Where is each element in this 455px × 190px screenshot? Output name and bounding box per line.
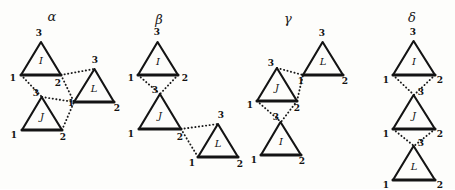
triangle-letter: J: [410, 110, 417, 121]
panel-label-gamma: γ: [284, 11, 292, 26]
vertex-number-1: 1: [298, 76, 304, 86]
vertex-number-3: 3: [92, 55, 98, 65]
vertex-number-2: 2: [114, 103, 120, 113]
vertex-number-3: 3: [154, 27, 160, 37]
vertex-number-2: 2: [177, 132, 183, 142]
vertex-number-3: 3: [319, 28, 325, 38]
vertex-number-1: 1: [251, 155, 257, 165]
triangle-l-gamma[interactable]: L123: [298, 28, 348, 86]
triangle-letter: L: [90, 83, 98, 94]
vertex-number-3: 3: [218, 110, 224, 120]
vertex-number-1: 1: [128, 129, 134, 139]
vertex-number-3: 3: [152, 85, 158, 95]
vertex-number-1: 1: [383, 129, 389, 139]
dotted-connector: [393, 129, 414, 146]
vertex-number-3: 3: [410, 27, 416, 37]
triangle-i-alpha[interactable]: I123: [10, 28, 61, 88]
triangle-letter: I: [38, 55, 44, 66]
triangle-j-gamma[interactable]: J123: [247, 58, 300, 113]
triangle-letter: L: [410, 161, 418, 172]
vertex-number-3: 3: [36, 28, 42, 38]
vertex-number-2: 2: [299, 156, 305, 166]
triangle-i-gamma[interactable]: I123: [251, 112, 305, 166]
triangle-letter: I: [411, 56, 417, 67]
links-gamma: [257, 68, 303, 122]
triangle-letter: J: [38, 111, 45, 122]
vertex-number-3: 3: [33, 88, 39, 98]
vertex-number-1: 1: [189, 158, 195, 168]
triangle-letter: I: [278, 136, 284, 147]
triangle-letter: J: [273, 82, 280, 93]
vertex-number-1: 1: [11, 130, 17, 140]
dotted-connector: [160, 75, 178, 94]
triangle-letter: L: [319, 56, 327, 67]
panel-gamma: L123J123I123γ: [247, 11, 348, 166]
vertex-number-1: 1: [247, 100, 253, 110]
triangle-letter: L: [214, 138, 222, 149]
vertex-number-2: 2: [60, 132, 66, 142]
triangle-l-alpha[interactable]: L123: [68, 55, 120, 113]
vertex-number-1: 1: [10, 73, 16, 83]
vertex-number-2: 2: [437, 180, 443, 190]
vertex-number-3: 3: [418, 138, 424, 148]
triangle-l-delta[interactable]: L123: [383, 138, 443, 190]
triangle-j-delta[interactable]: J123: [383, 87, 443, 139]
triangle-j-beta[interactable]: J123: [128, 85, 183, 142]
vertex-number-1: 1: [68, 98, 74, 108]
dotted-connector: [393, 75, 414, 95]
vertex-number-2: 2: [437, 129, 443, 139]
panels-layer: I123J123L123αI123J123L123βL123J123I123γI…: [10, 9, 443, 190]
panel-label-beta: β: [154, 12, 163, 27]
vertex-number-1: 1: [128, 73, 134, 83]
vertex-number-2: 2: [437, 75, 443, 85]
vertex-number-1: 1: [383, 180, 389, 190]
triangle-letter: J: [156, 110, 163, 121]
dotted-connector: [181, 129, 198, 157]
vertex-number-2: 2: [237, 159, 243, 169]
panel-delta: I123J123L123δ: [383, 10, 443, 190]
triangle-i-beta[interactable]: I123: [128, 27, 188, 83]
figure-root: I123J123L123αI123J123L123βL123J123I123γI…: [0, 0, 455, 189]
panel-alpha: I123J123L123α: [10, 9, 120, 142]
triangle-letter: I: [155, 56, 161, 67]
vertex-number-1: 1: [383, 75, 389, 85]
vertex-number-3: 3: [418, 87, 424, 97]
vertex-number-3: 3: [273, 112, 279, 122]
dotted-connector: [61, 69, 94, 75]
dotted-connector: [181, 124, 218, 129]
panel-label-alpha: α: [48, 9, 57, 24]
triangle-j-alpha[interactable]: J123: [11, 88, 66, 142]
vertex-number-2: 2: [55, 78, 61, 88]
vertex-number-2: 2: [342, 76, 348, 86]
vertex-number-2: 2: [182, 73, 188, 83]
panel-beta: I123J123L123β: [128, 12, 243, 169]
triangle-configuration-diagram: I123J123L123αI123J123L123βL123J123I123γI…: [0, 0, 455, 189]
panel-label-delta: δ: [408, 10, 416, 25]
vertex-number-3: 3: [268, 58, 274, 68]
vertex-number-2: 2: [294, 103, 300, 113]
triangle-l-beta[interactable]: L123: [189, 110, 243, 169]
triangle-i-delta[interactable]: I123: [383, 27, 443, 85]
